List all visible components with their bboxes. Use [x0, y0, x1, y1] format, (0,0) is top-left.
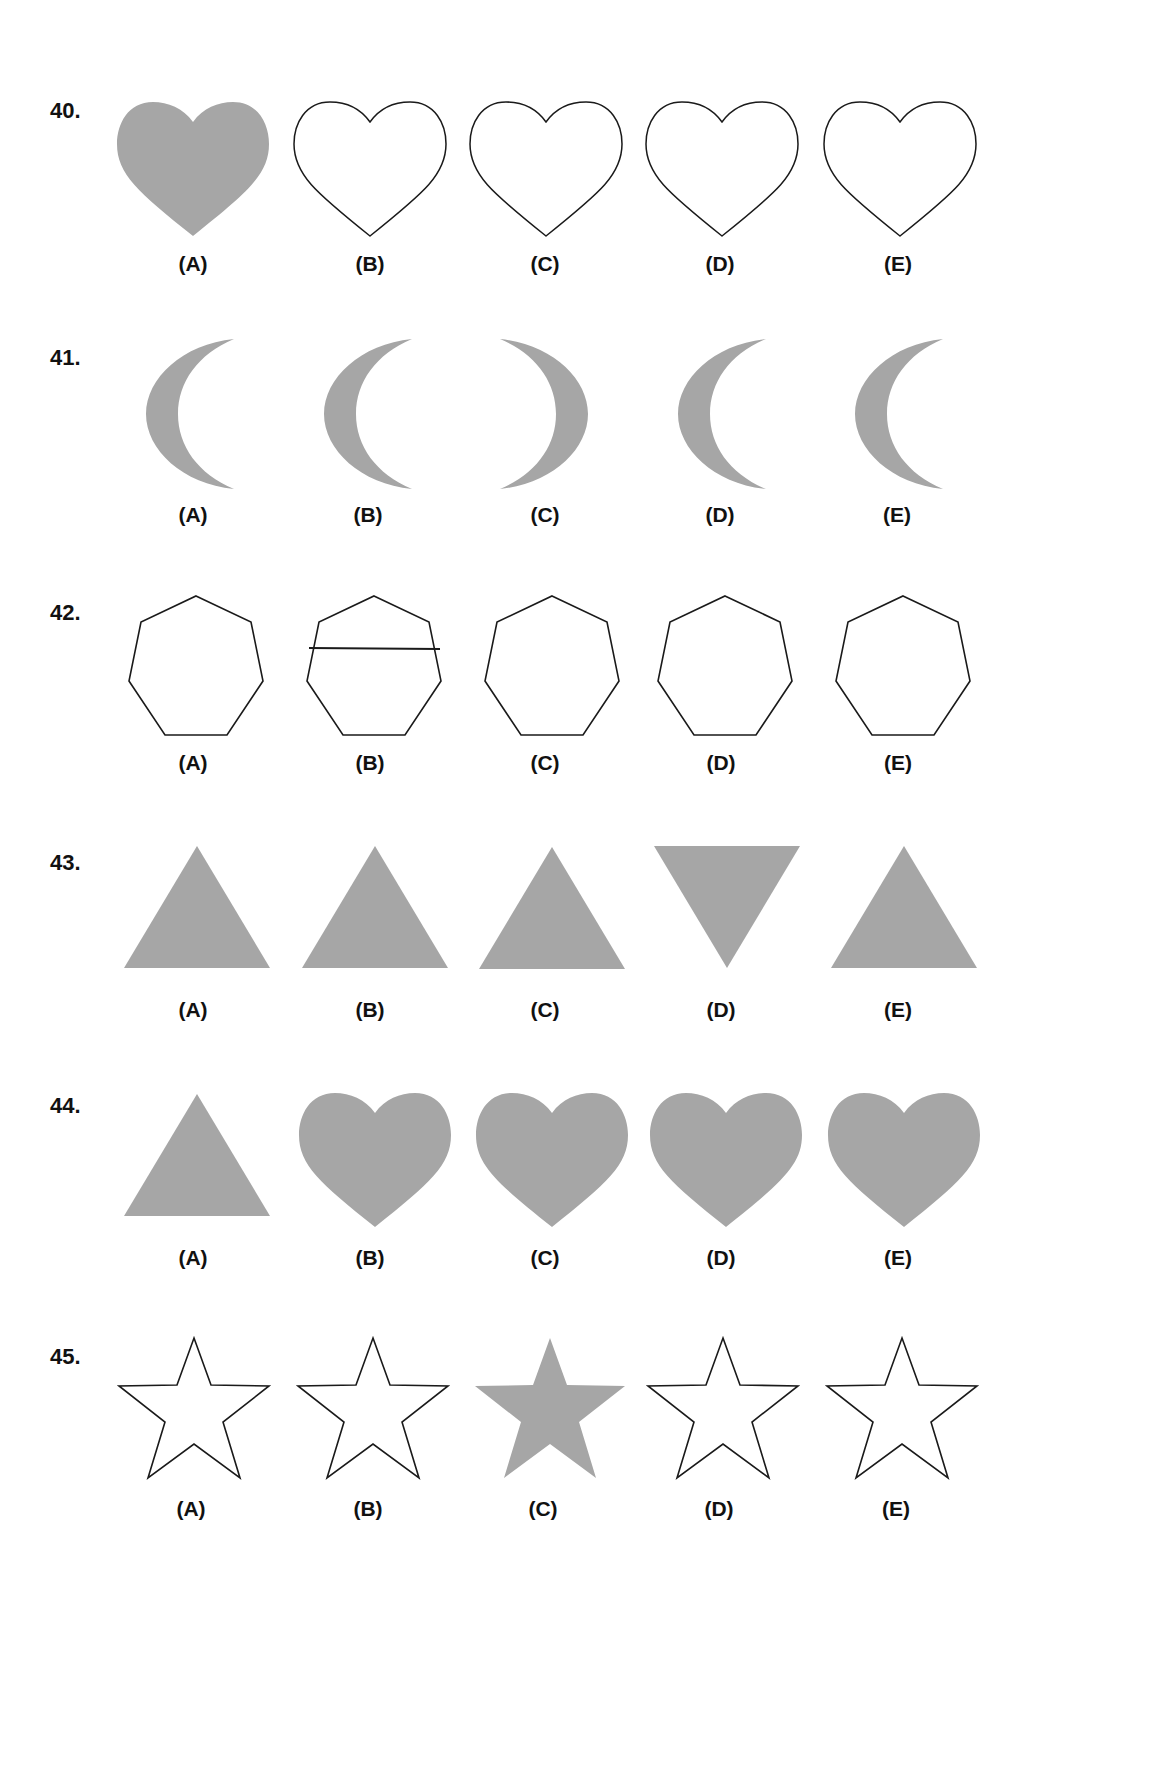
q42-option-d-heptagon: [658, 596, 792, 735]
q42-option-e-heptagon: [836, 596, 970, 735]
q44-label-b: (B): [330, 1246, 410, 1270]
q43-option-e-triangle-up: [831, 846, 977, 968]
q45-label-d: (D): [679, 1497, 759, 1521]
q45-option-d-star-outline: [648, 1338, 798, 1478]
q41-label-c: (C): [505, 503, 585, 527]
q42-option-c-heptagon: [485, 596, 619, 735]
q41-option-e-crescent: [855, 339, 943, 489]
q42-option-b-heptagon-with-line: [307, 596, 441, 735]
q45-label-b: (B): [328, 1497, 408, 1521]
q42-label-c: (C): [505, 751, 585, 775]
q41-label-b: (B): [328, 503, 408, 527]
q40-option-d-heart-outline: [646, 102, 798, 236]
q41-label-e: (E): [857, 503, 937, 527]
q40-label-c: (C): [505, 252, 585, 276]
q43-label-d: (D): [681, 998, 761, 1022]
q40-option-e-heart-outline: [824, 102, 976, 236]
q43-label-b: (B): [330, 998, 410, 1022]
q43-option-d-triangle-down: [654, 846, 800, 968]
q40-option-b-heart-outline: [294, 102, 446, 236]
q43-option-a-triangle-up: [124, 846, 270, 968]
q45-label-e: (E): [856, 1497, 936, 1521]
q45-option-c-star-filled: [475, 1338, 625, 1478]
q44-option-e-heart-filled: [828, 1093, 980, 1227]
q45-option-e-star-outline: [827, 1338, 977, 1478]
q43-option-b-triangle-up: [302, 846, 448, 968]
q41-option-c-crescent-reversed: [500, 339, 588, 489]
q45-option-a-star-outline: [119, 1338, 269, 1478]
q40-label-b: (B): [330, 252, 410, 276]
q41-label-a: (A): [153, 503, 233, 527]
q40-option-c-heart-outline: [470, 102, 622, 236]
q43-label-e: (E): [858, 998, 938, 1022]
q45-option-b-star-outline: [298, 1338, 448, 1478]
q40-option-a-heart-filled: [117, 102, 269, 236]
q44-option-c-heart-filled: [476, 1093, 628, 1227]
q43-label-c: (C): [505, 998, 585, 1022]
q41-option-b-crescent: [324, 339, 412, 489]
q41-option-a-crescent: [146, 339, 234, 489]
q40-label-e: (E): [858, 252, 938, 276]
q44-option-a-triangle: [124, 1094, 270, 1216]
q42-option-a-heptagon: [129, 596, 263, 735]
q43-label-a: (A): [153, 998, 233, 1022]
q42-label-d: (D): [681, 751, 761, 775]
q40-label-d: (D): [680, 252, 760, 276]
q40-label-a: (A): [153, 252, 233, 276]
q42-label-a: (A): [153, 751, 233, 775]
q45-label-a: (A): [151, 1497, 231, 1521]
q41-label-d: (D): [680, 503, 760, 527]
q41-option-d-crescent: [678, 339, 766, 489]
q44-label-d: (D): [681, 1246, 761, 1270]
q42-label-e: (E): [858, 751, 938, 775]
q45-label-c: (C): [503, 1497, 583, 1521]
q44-option-d-heart-filled: [650, 1093, 802, 1227]
q44-label-e: (E): [858, 1246, 938, 1270]
q43-option-c-triangle-up: [479, 847, 625, 969]
q44-label-c: (C): [505, 1246, 585, 1270]
q42-label-b: (B): [330, 751, 410, 775]
q44-label-a: (A): [153, 1246, 233, 1270]
q44-option-b-heart-filled: [299, 1093, 451, 1227]
